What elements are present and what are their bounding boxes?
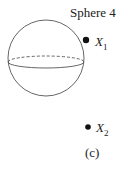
point-x2 <box>85 124 91 130</box>
sphere-title: Sphere 4 <box>70 6 116 19</box>
caption: (c) <box>85 146 99 159</box>
sphere-diagram <box>0 0 119 170</box>
point-x1 <box>83 37 89 43</box>
label-x1: X1 <box>95 35 107 50</box>
label-x2: X2 <box>96 121 108 136</box>
equator-back <box>8 56 84 62</box>
equator-front <box>8 62 84 68</box>
